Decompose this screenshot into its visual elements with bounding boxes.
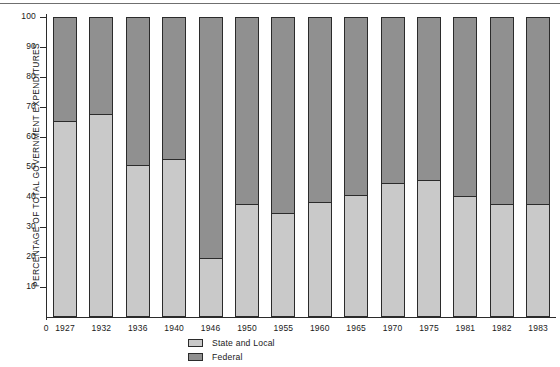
y-axis-tick [40,197,47,198]
bar-segment-federal [381,17,405,184]
bar-column [417,17,441,317]
y-axis-tick-label: 100 [2,12,36,21]
bar-column [199,17,223,317]
bar-segment-state-and-local [235,205,259,318]
bar-segment-federal [53,17,77,122]
legend-item: State and Local [188,336,275,350]
plot-area [47,17,556,317]
bar-segment-federal [308,17,332,203]
bar-column [453,17,477,317]
bar-column [526,17,550,317]
bar-segment-state-and-local [308,203,332,317]
y-axis-tick-label: 80 [2,72,36,81]
x-axis-line [46,317,556,318]
bar-segment-federal [126,17,150,166]
y-axis-tick-label: 30 [2,222,36,231]
bar-segment-state-and-local [453,197,477,317]
bar-column [53,17,77,317]
bar-segment-state-and-local [526,205,550,318]
bar-segment-state-and-local [199,259,223,318]
bar-segment-state-and-local [490,205,514,318]
y-axis-tick-label: 70 [2,102,36,111]
y-axis-tick [40,137,47,138]
bar-column [162,17,186,317]
bar-segment-state-and-local [126,166,150,318]
bar-segment-federal [526,17,550,205]
chart-legend: State and LocalFederal [188,336,275,364]
y-axis-tick-label: 20 [2,252,36,261]
bar-column [381,17,405,317]
y-axis-tick [40,287,47,288]
x-axis-label: 1983 [515,323,560,333]
bar-segment-federal [89,17,113,115]
bar-segment-federal [199,17,223,259]
legend-label: State and Local [212,338,275,348]
y-axis-tick [40,77,47,78]
y-axis-tick [40,227,47,228]
y-axis-tick [40,17,47,18]
y-axis-tick-label: 50 [2,162,36,171]
legend-swatch [188,353,203,361]
bar-column [271,17,295,317]
legend-label: Federal [212,352,243,362]
bar-segment-state-and-local [89,115,113,318]
bar-segment-state-and-local [417,181,441,318]
bar-segment-federal [162,17,186,160]
y-axis-tick [40,107,47,108]
bar-column [490,17,514,317]
bar-segment-state-and-local [162,160,186,318]
bar-segment-federal [344,17,368,196]
stacked-bar-chart: PERCENTAGE OF TOTAL GOVERNMENT EXPENDITU… [0,0,560,367]
bar-segment-state-and-local [381,184,405,318]
bar-column [344,17,368,317]
x-axis-zero-label: 0 [32,323,60,333]
y-axis-tick [40,167,47,168]
bar-segment-federal [490,17,514,205]
bar-column [126,17,150,317]
y-axis-tick [40,47,47,48]
bar-column [308,17,332,317]
y-axis-tick-label: 10 [2,282,36,291]
bar-column [235,17,259,317]
legend-item: Federal [188,350,275,364]
bar-segment-federal [453,17,477,197]
y-axis-tick-label: 60 [2,132,36,141]
bar-segment-federal [417,17,441,181]
y-axis-tick [40,257,47,258]
y-axis-tick-label: 90 [2,42,36,51]
bar-segment-state-and-local [344,196,368,318]
y-axis-tick-label: 40 [2,192,36,201]
bar-segment-federal [235,17,259,205]
bar-segment-federal [271,17,295,214]
bar-segment-state-and-local [53,122,77,317]
legend-swatch [188,339,203,347]
bar-column [89,17,113,317]
bar-segment-state-and-local [271,214,295,318]
